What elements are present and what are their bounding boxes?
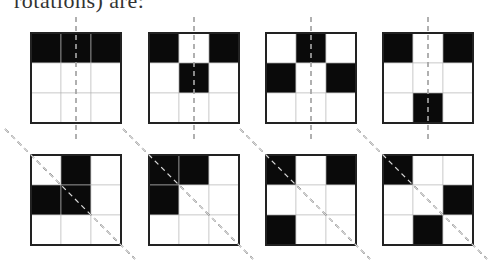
empty-cell bbox=[413, 63, 443, 93]
grid-3x3-svg bbox=[383, 155, 473, 245]
filled-cell bbox=[91, 33, 121, 63]
empty-cell bbox=[383, 93, 413, 123]
filled-cell bbox=[326, 63, 356, 93]
empty-cell bbox=[149, 215, 179, 245]
filled-cell bbox=[413, 215, 443, 245]
empty-cell bbox=[296, 155, 326, 185]
empty-cell bbox=[209, 93, 239, 123]
empty-cell bbox=[209, 155, 239, 185]
empty-cell bbox=[296, 63, 326, 93]
empty-cell bbox=[443, 93, 473, 123]
filled-cell bbox=[266, 215, 296, 245]
grid-3x3-svg bbox=[149, 155, 239, 245]
empty-cell bbox=[266, 93, 296, 123]
empty-cell bbox=[383, 185, 413, 215]
empty-cell bbox=[326, 33, 356, 63]
empty-cell bbox=[91, 185, 121, 215]
filled-cell bbox=[179, 63, 209, 93]
empty-cell bbox=[149, 93, 179, 123]
filled-cell bbox=[149, 33, 179, 63]
filled-cell bbox=[31, 185, 61, 215]
empty-cell bbox=[61, 215, 91, 245]
filled-cell bbox=[61, 155, 91, 185]
grid-figure-1 bbox=[31, 33, 121, 124]
filled-cell bbox=[209, 33, 239, 63]
grid-3x3-svg bbox=[266, 155, 356, 245]
filled-cell bbox=[326, 155, 356, 185]
filled-cell bbox=[443, 33, 473, 63]
grid-figure-8 bbox=[383, 155, 473, 246]
grid-3x3-svg bbox=[31, 33, 121, 123]
filled-cell bbox=[179, 155, 209, 185]
empty-cell bbox=[266, 33, 296, 63]
empty-cell bbox=[266, 185, 296, 215]
grid-figure-4 bbox=[383, 33, 473, 124]
filled-cell bbox=[266, 63, 296, 93]
empty-cell bbox=[383, 63, 413, 93]
grid-figure-7 bbox=[266, 155, 356, 246]
empty-cell bbox=[91, 155, 121, 185]
empty-cell bbox=[443, 155, 473, 185]
grid-figure-2 bbox=[149, 33, 239, 124]
grid-3x3-svg bbox=[266, 33, 356, 123]
grid-figure-5 bbox=[31, 155, 121, 246]
empty-cell bbox=[61, 63, 91, 93]
empty-cell bbox=[296, 215, 326, 245]
empty-cell bbox=[91, 93, 121, 123]
empty-cell bbox=[383, 215, 413, 245]
grid-3x3-svg bbox=[149, 33, 239, 123]
empty-cell bbox=[443, 63, 473, 93]
empty-cell bbox=[326, 185, 356, 215]
empty-cell bbox=[413, 155, 443, 185]
empty-cell bbox=[31, 63, 61, 93]
filled-cell bbox=[443, 185, 473, 215]
filled-cell bbox=[31, 33, 61, 63]
empty-cell bbox=[91, 63, 121, 93]
grid-3x3-svg bbox=[383, 33, 473, 123]
grid-figure-3 bbox=[266, 33, 356, 124]
filled-cell bbox=[149, 185, 179, 215]
empty-cell bbox=[179, 215, 209, 245]
empty-cell bbox=[149, 63, 179, 93]
empty-cell bbox=[31, 93, 61, 123]
grid-figure-6 bbox=[149, 155, 239, 246]
empty-cell bbox=[209, 63, 239, 93]
empty-cell bbox=[31, 215, 61, 245]
empty-cell bbox=[326, 93, 356, 123]
filled-cell bbox=[383, 33, 413, 63]
caption-text: rotations) are: bbox=[14, 0, 144, 14]
empty-cell bbox=[209, 185, 239, 215]
grid-3x3-svg bbox=[31, 155, 121, 245]
